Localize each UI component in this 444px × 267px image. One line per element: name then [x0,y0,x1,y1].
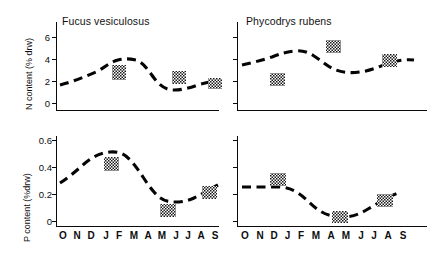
x-tick-label: J [170,230,182,241]
y-tick-label-6: 6 [34,32,50,43]
x-tick-label: M [126,230,142,241]
sample-marker [112,65,126,80]
y-axis-label-p-fucus: P content (%drw) [22,173,32,242]
y-tick-label-4: 4 [34,54,50,65]
panel-n-phycodrys: Phycodrys rubens [222,0,444,130]
y-axis-label-n-fucus: N content (% drw) [24,38,34,110]
panel-title-n-fucus: Fucus vesiculosus [62,15,149,27]
x-tick-label: J [368,230,380,241]
x-tick-label: M [154,230,170,241]
curve-p-phycodrys [242,187,398,217]
sample-marker [377,194,393,207]
x-tick-label: O [56,230,70,241]
sample-marker [382,54,397,67]
x-tick-label: A [141,230,155,241]
y-tick-label-2: 2 [34,76,50,87]
x-tick-label: J [281,230,294,241]
sample-marker [326,40,341,53]
sample-marker [104,157,119,171]
x-tick-label: S [396,230,410,241]
x-tick-label: J [182,230,194,241]
x-tick-label: A [324,230,338,241]
panel-p-phycodrys: O N D J F M A M J J A S [222,130,444,267]
x-tick-label: N [70,230,84,241]
x-tick-label: A [194,230,208,241]
panel-p-fucus: P content (%drw) 0.6 0.4 0.2 0 O N D J F… [0,130,222,267]
y-tick-label-0: 0 [34,98,50,109]
figure-root: N content (% drw) Fucus vesiculosus 6 4 … [0,0,444,267]
y-tick-label-02: 0.2 [28,189,52,200]
x-tick-label: D [84,230,98,241]
sample-marker [160,204,176,217]
sample-marker [332,211,348,223]
x-tick-label: M [338,230,354,241]
y-tick-label-06: 0.6 [28,135,52,146]
x-tick-label: D [267,230,281,241]
x-tick-label: A [381,230,395,241]
y-tick-label-04: 0.4 [28,162,52,173]
x-tick-label: O [238,230,252,241]
x-tick-label: F [112,230,126,241]
curve-p-fucus [60,152,218,202]
x-tick-label: F [294,230,308,241]
sample-marker [208,78,222,89]
sample-marker [270,173,286,186]
x-tick-label: J [99,230,113,241]
x-tick-label: S [208,230,222,241]
sample-marker [202,186,217,199]
x-tick-label: M [308,230,324,241]
sample-marker [172,71,186,84]
curve-n-fucus [60,59,216,90]
x-tick-label: J [355,230,367,241]
sample-marker [270,73,285,86]
panel-title-n-phycodrys: Phycodrys rubens [246,15,332,27]
y-tick-label-00: 0 [28,216,52,227]
panel-n-fucus: N content (% drw) Fucus vesiculosus 6 4 … [0,0,222,130]
x-tick-label: N [253,230,267,241]
plot-area-p-phycodrys [222,130,444,240]
